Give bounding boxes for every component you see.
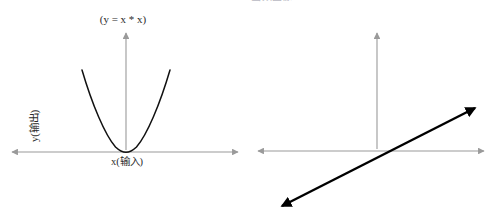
y-axis-label: y(输出) [28,110,41,142]
x-axis-label: x(输入) [96,155,158,168]
plot-title-parabola: (y = x * x) [78,13,168,26]
identity-line [282,108,475,206]
line-plot-svg [246,0,493,219]
figure-parabola: (y = x * x) x(输入) y(输出) [0,0,246,219]
figure-line: (y = x) x(输入) y(输出) [246,0,493,219]
